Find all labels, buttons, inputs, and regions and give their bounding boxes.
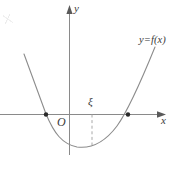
xi-label: ξ xyxy=(88,96,93,107)
origin-label: O xyxy=(57,116,66,128)
y-axis-arrow-icon xyxy=(66,5,72,14)
graph-canvas xyxy=(0,0,182,169)
y-axis-label: y xyxy=(74,3,79,14)
right-root-marker xyxy=(126,112,130,116)
function-graph-figure: y x O ξ y=f(x) xyxy=(0,0,182,169)
left-root-marker xyxy=(44,112,48,116)
function-label: y=f(x) xyxy=(139,35,166,46)
x-axis-label: x xyxy=(161,115,166,126)
